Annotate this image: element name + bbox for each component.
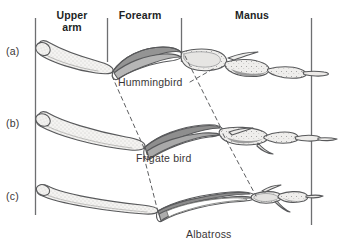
phalanx-a-2 [267, 67, 306, 79]
column-header-upper-arm: Upper arm [46, 10, 98, 33]
alula-c [262, 185, 281, 192]
row-label-a: (a) [6, 45, 19, 57]
species-label-albatross: Albatross [186, 228, 232, 240]
wing-skeleton-albatross [35, 183, 323, 222]
column-header-forearm: Forearm [110, 10, 170, 22]
phalanx-c-tip [306, 195, 323, 197]
alula-a [228, 52, 258, 60]
column-header-manus: Manus [196, 10, 308, 22]
row-label-c: (c) [6, 190, 19, 202]
digit-c-minor [275, 201, 290, 212]
phalanx-b-tip [318, 138, 337, 141]
row-label-b: (b) [6, 117, 19, 129]
carpal-c [254, 194, 278, 202]
connector-elbow-b-c [144, 157, 158, 212]
phalanx-b-1 [264, 132, 299, 143]
phalanx-a-tip [303, 71, 328, 76]
phalanx-b-2 [295, 135, 321, 141]
species-label-frigate-bird: Frigate bird [136, 152, 192, 164]
column-header-upper-arm-line2: arm [62, 21, 82, 33]
humerus-b [36, 112, 145, 151]
wing-skeleton-illustration [0, 0, 347, 248]
phalanx-c-1 [278, 192, 308, 203]
column-header-upper-arm-line1: Upper [57, 9, 88, 21]
digit-b-minor [257, 143, 273, 154]
bird-wing-comparison-figure: Upper arm Forearm Manus (a) (b) (c) Humm… [0, 0, 347, 248]
humerus-c [37, 185, 158, 214]
species-label-hummingbird: Hummingbird [118, 76, 183, 88]
